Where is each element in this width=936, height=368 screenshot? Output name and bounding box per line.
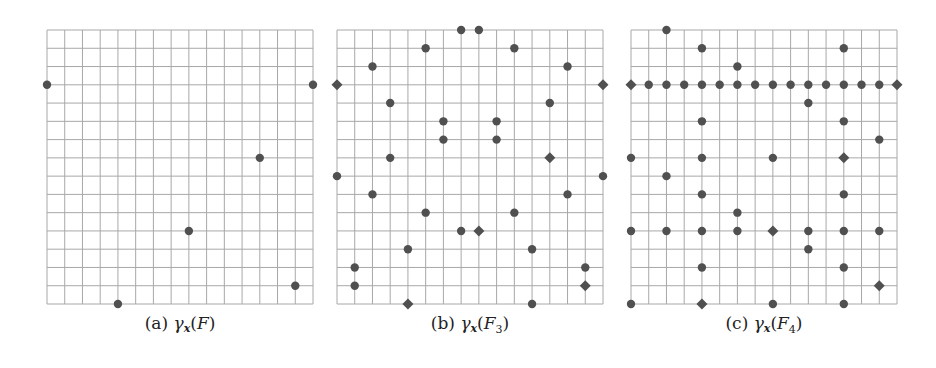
circle-point-marker [581,263,589,271]
circle-point-marker [698,154,706,162]
circle-point-marker [475,26,483,34]
circle-point-marker [368,62,376,70]
panel-a-grid [47,30,313,304]
circle-point-marker [733,81,741,89]
circle-point-marker [698,263,706,271]
circle-point-marker [492,135,500,143]
circle-point-marker [804,99,812,107]
circle-point-marker [351,282,359,290]
caption-arg: F [197,313,209,333]
circle-point-marker [662,26,670,34]
circle-point-marker [563,190,571,198]
circle-point-marker [645,81,653,89]
circle-point-marker [840,117,848,125]
caption-label: (a) [145,313,168,333]
circle-point-marker [733,227,741,235]
circle-point-marker [291,282,299,290]
panel-b-caption: (b) γx(F3) [337,313,603,336]
circle-point-marker [627,300,635,308]
caption-gamma-subscript: x [184,322,191,335]
circle-point-marker [439,135,447,143]
circle-point-marker [662,227,670,235]
diamond-point-marker [696,299,707,310]
circle-point-marker [439,117,447,125]
circle-point-marker [386,99,394,107]
circle-point-marker [662,81,670,89]
circle-point-marker [528,300,536,308]
circle-point-marker [114,300,122,308]
diamond-point-marker [332,79,343,90]
panel-a-caption: (a) γx(F) [47,313,313,336]
diamond-point-marker [580,280,591,291]
circle-point-marker [680,81,688,89]
circle-point-marker [840,81,848,89]
circle-point-marker [857,81,865,89]
caption-gamma: γ [754,313,764,333]
circle-point-marker [43,81,51,89]
diamond-point-marker [626,79,637,90]
circle-point-marker [627,154,635,162]
diamond-point-marker [874,280,885,291]
circle-point-marker [715,81,723,89]
caption-arg: F [484,313,496,333]
circle-point-marker [333,172,341,180]
circle-point-marker [840,263,848,271]
circle-point-marker [528,245,536,253]
circle-point-marker [804,227,812,235]
circle-point-marker [510,44,518,52]
diamond-point-marker [892,79,903,90]
circle-point-marker [563,62,571,70]
caption-arg-subscript: 3 [496,323,503,336]
diamond-point-marker [767,225,778,236]
caption-label: (b) [431,313,455,333]
diamond-point-marker [544,152,555,163]
diamond-point-marker [598,79,609,90]
circle-point-marker [822,81,830,89]
caption-label: (c) [725,313,748,333]
circle-point-marker [599,172,607,180]
circle-point-marker [769,300,777,308]
circle-point-marker [457,26,465,34]
circle-point-marker [804,245,812,253]
circle-point-marker [875,135,883,143]
caption-arg: F [777,313,789,333]
circle-point-marker [457,227,465,235]
circle-point-marker [698,190,706,198]
circle-point-marker [662,172,670,180]
caption-gamma-subscript: x [764,322,771,335]
circle-point-marker [733,62,741,70]
circle-point-marker [627,227,635,235]
circle-point-marker [698,81,706,89]
circle-point-marker [546,99,554,107]
circle-point-marker [840,190,848,198]
circle-point-marker [840,44,848,52]
diamond-point-marker [402,299,413,310]
circle-point-marker [751,81,759,89]
circle-point-marker [421,44,429,52]
circle-point-marker [698,227,706,235]
circle-point-marker [733,208,741,216]
circle-point-marker [804,81,812,89]
circle-point-marker [256,154,264,162]
circle-point-marker [840,227,848,235]
panel-c-caption: (c) γx(F4) [631,313,897,336]
caption-gamma: γ [460,313,470,333]
circle-point-marker [510,208,518,216]
circle-point-marker [386,154,394,162]
circle-point-marker [786,81,794,89]
circle-point-marker [698,44,706,52]
panel-c-grid [631,30,897,304]
circle-point-marker [421,208,429,216]
caption-gamma: γ [174,313,184,333]
circle-point-marker [769,81,777,89]
circle-point-marker [840,300,848,308]
circle-point-marker [492,117,500,125]
circle-point-marker [404,245,412,253]
circle-point-marker [698,117,706,125]
caption-arg-subscript: 4 [789,323,796,336]
circle-point-marker [769,154,777,162]
diamond-point-marker [838,152,849,163]
circle-point-marker [368,190,376,198]
diamond-point-marker [473,225,484,236]
circle-point-marker [351,263,359,271]
